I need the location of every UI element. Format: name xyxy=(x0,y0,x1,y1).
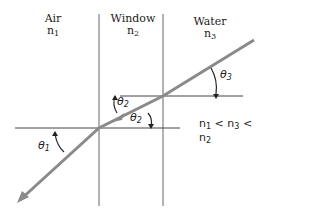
ray-arrow-window xyxy=(112,113,124,122)
theta3-arc xyxy=(211,68,216,94)
theta3-label: θ3 xyxy=(220,68,232,82)
theta1-arc xyxy=(55,134,64,152)
theta2a-label: θ2 xyxy=(117,95,129,109)
theta1-label: θ1 xyxy=(38,139,50,153)
index-n2: n2 xyxy=(108,25,158,40)
label-air: Air n1 xyxy=(38,13,68,40)
index-n3: n3 xyxy=(190,28,230,43)
label-window: Window n2 xyxy=(108,13,158,40)
index-n1: n1 xyxy=(38,25,68,40)
index-relation: n1 < n3 < n2 xyxy=(199,117,267,145)
theta1-arrow xyxy=(52,131,58,136)
label-water: Water n3 xyxy=(190,16,230,43)
theta2b-label: θ2 xyxy=(130,111,142,125)
